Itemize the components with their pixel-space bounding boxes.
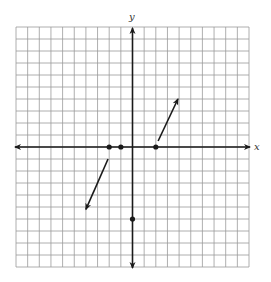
plotted-point <box>118 144 123 149</box>
ray-arrow <box>86 159 108 209</box>
plotted-point <box>107 144 112 149</box>
coordinate-plane: x y <box>0 0 271 282</box>
plotted-point <box>130 216 135 221</box>
x-axis-label: x <box>254 141 260 152</box>
plotted-point <box>153 144 158 149</box>
axes <box>15 28 250 268</box>
y-axis-label: y <box>128 11 135 22</box>
